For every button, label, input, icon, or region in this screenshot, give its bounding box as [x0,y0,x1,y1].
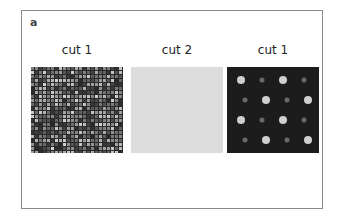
caption-panel-3: cut 1 [227,43,319,57]
caption-panel-1: cut 1 [31,43,123,57]
panel-label: a [30,16,37,29]
caption-panel-2: cut 2 [131,43,223,57]
figure-frame: a cut 1 cut 2 cut 1 [21,10,323,209]
image-panel-1-textured [31,67,123,153]
image-panel-2-uniform [131,67,223,153]
image-panel-3-lattice [227,67,319,153]
